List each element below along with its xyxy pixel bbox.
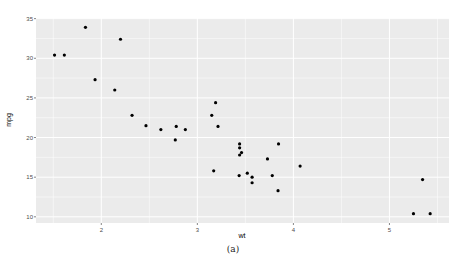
y-axis: 101520253035 [26,16,36,220]
data-point [214,101,217,104]
x-tick-label: 2 [100,227,104,233]
data-point [174,138,177,141]
data-point [238,142,241,145]
data-point [238,174,241,177]
data-point [159,128,162,131]
figure-caption: (a) [0,244,466,254]
data-point [216,125,219,128]
x-tick-label: 5 [388,227,392,233]
data-point [184,128,187,131]
data-point [251,181,254,184]
y-tick-label: 20 [26,135,33,141]
data-point [238,153,241,156]
y-axis-title: mpg [5,113,13,127]
data-point [84,26,87,29]
x-tick-label: 3 [196,227,200,233]
plot-panel [36,18,449,223]
data-point [277,142,280,145]
data-point [238,146,241,149]
data-point [412,212,415,215]
data-point [212,169,215,172]
y-tick-label: 10 [26,214,33,220]
y-tick-label: 35 [26,16,33,22]
x-axis-title: wt [238,232,246,239]
data-point [113,88,116,91]
data-point [175,125,178,128]
x-axis: 2345 [100,223,392,233]
data-point [271,174,274,177]
data-point [299,164,302,167]
x-tick-label: 4 [292,227,296,233]
y-tick-label: 25 [26,95,33,101]
data-point [130,114,133,117]
data-point [119,38,122,41]
data-point [429,212,432,215]
data-point [266,157,269,160]
scatter-chart: 2345 101520253035 wt mpg [0,0,466,240]
y-tick-label: 30 [26,55,33,61]
data-point [251,176,254,179]
data-point [210,114,213,117]
data-point [53,53,56,56]
data-point [144,124,147,127]
data-point [63,53,66,56]
y-tick-label: 15 [26,174,33,180]
data-point [276,189,279,192]
data-point [246,172,249,175]
data-point [93,78,96,81]
data-point [421,178,424,181]
